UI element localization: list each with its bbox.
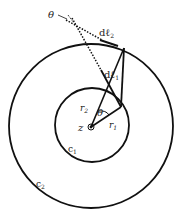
label-theta-center: θ	[97, 107, 103, 118]
contour-diagram: θ dℓ2 dℓ1 r2 θ r1 z c1 c2	[0, 0, 183, 222]
label-z: z	[77, 122, 84, 133]
dotted-tangent-line	[66, 20, 102, 40]
label-theta-outer: θ	[48, 9, 54, 20]
label-c1: c1	[68, 144, 77, 155]
center-point	[90, 126, 93, 129]
label-r2: r2	[80, 103, 88, 114]
connector-line	[121, 48, 124, 107]
diagram-canvas: θ dℓ2 dℓ1 r2 θ r1 z c1 c2	[0, 0, 183, 222]
label-dl1: dℓ1	[104, 69, 119, 81]
label-dl2: dℓ2	[99, 27, 114, 39]
theta-leader	[58, 15, 67, 19]
label-c2: c2	[36, 179, 45, 190]
label-r1: r1	[109, 120, 117, 131]
